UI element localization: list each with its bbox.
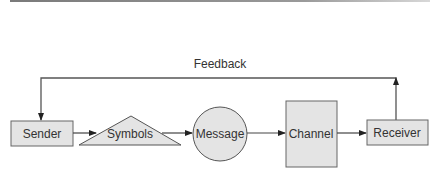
symbols-label: Symbols — [107, 127, 153, 141]
channel-label: Channel — [289, 127, 334, 141]
receiver-node: Receiver — [367, 120, 428, 145]
sender-label: Sender — [23, 127, 62, 141]
message-node: Message — [193, 107, 247, 161]
sender-node: Sender — [11, 121, 73, 146]
receiver-label: Receiver — [373, 126, 420, 140]
symbols-node: Symbols — [79, 116, 181, 145]
feedback-label: Feedback — [194, 57, 248, 71]
communication-diagram: Feedback Sender Symbols Message Channel … — [0, 0, 442, 188]
channel-node: Channel — [286, 101, 337, 167]
message-label: Message — [196, 127, 245, 141]
